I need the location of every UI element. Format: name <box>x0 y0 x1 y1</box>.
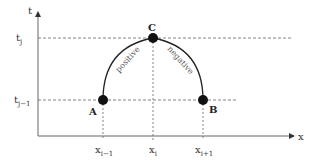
positive-curve <box>103 38 153 100</box>
diagram-canvas: A B C positive negative t x tj tj−1 xi−1… <box>0 0 318 161</box>
point-b-label: B <box>209 104 217 115</box>
y-axis-label: t <box>28 5 32 16</box>
point-c <box>148 33 158 43</box>
tj-minus-1-label: tj−1 <box>14 94 31 108</box>
characteristic-diagram: A B C positive negative t x tj tj−1 xi−1… <box>0 0 318 161</box>
tj-label: tj <box>16 32 22 46</box>
xi-minus-1-label: xi−1 <box>95 144 113 158</box>
point-a <box>98 95 108 105</box>
xi-plus-1-label: xi+1 <box>195 144 213 158</box>
xi-label: xi <box>149 144 158 158</box>
point-a-label: A <box>88 106 97 117</box>
point-c-label: C <box>148 22 156 33</box>
x-axis-label: x <box>298 131 304 142</box>
positive-label: positive <box>114 45 142 75</box>
point-b <box>198 95 208 105</box>
